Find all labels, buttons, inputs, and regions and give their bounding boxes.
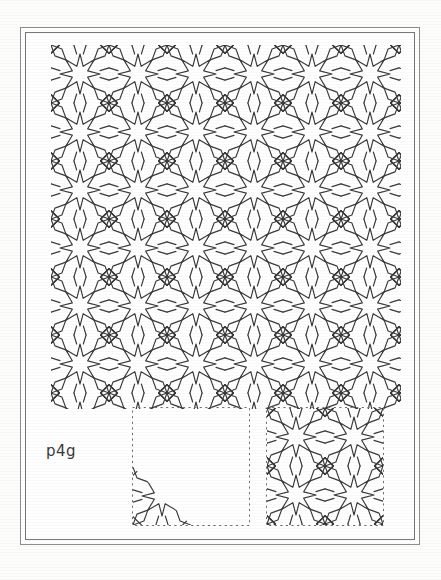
unit-cell-panel — [266, 407, 384, 526]
fundamental-domain-panel — [132, 407, 250, 526]
group-label: p4g — [46, 442, 76, 460]
figure-plate: p4g — [0, 0, 441, 580]
dashed-border — [133, 408, 250, 526]
main-pattern — [51, 45, 401, 409]
